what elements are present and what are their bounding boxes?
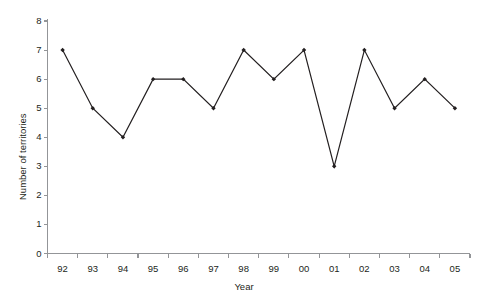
x-tick-label: 98	[231, 264, 257, 274]
y-tick-label: 8	[28, 16, 42, 26]
x-tick-label: 94	[110, 264, 136, 274]
y-tick-label: 1	[28, 219, 42, 229]
x-tick-label: 92	[50, 264, 76, 274]
plot-area	[0, 0, 488, 304]
y-tick-label: 0	[28, 249, 42, 259]
data-point-marker	[362, 48, 366, 52]
x-tick-label: 05	[442, 264, 468, 274]
x-tick-label: 00	[291, 264, 317, 274]
x-tick-label: 99	[261, 264, 287, 274]
x-tick-label: 93	[80, 264, 106, 274]
y-tick-label: 7	[28, 45, 42, 55]
data-point-marker	[151, 77, 155, 81]
x-tick-label: 04	[412, 264, 438, 274]
y-tick-marks	[44, 21, 48, 254]
data-point-marker	[60, 48, 64, 52]
x-tick-marks	[48, 254, 471, 258]
x-tick-label: 03	[382, 264, 408, 274]
y-tick-label: 3	[28, 161, 42, 171]
x-axis-title: Year	[0, 281, 488, 292]
data-point-marker	[332, 164, 336, 168]
x-tick-label: 95	[140, 264, 166, 274]
y-tick-label: 5	[28, 103, 42, 113]
x-tick-label: 96	[170, 264, 196, 274]
x-tick-label: 01	[321, 264, 347, 274]
line-chart: 012345678 9293949596979899000102030405 N…	[0, 0, 488, 304]
y-tick-label: 6	[28, 74, 42, 84]
y-tick-label: 2	[28, 190, 42, 200]
y-tick-label: 4	[28, 132, 42, 142]
axis-group	[48, 19, 471, 254]
y-axis-title: Number of territories	[17, 113, 28, 200]
x-tick-label: 97	[200, 264, 226, 274]
data-point-markers	[60, 48, 457, 169]
x-tick-label: 02	[351, 264, 377, 274]
